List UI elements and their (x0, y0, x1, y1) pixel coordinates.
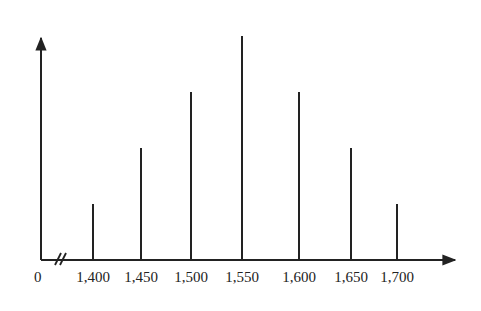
x-tick-labels: 1,4001,4501,5001,5501,6001,6501,700 (76, 269, 414, 285)
bar-chart: 0 1,4001,4501,5001,5501,6001,6501,700 (0, 0, 481, 311)
x-tick-label: 1,400 (76, 269, 110, 285)
x-tick-label: 1,650 (334, 269, 368, 285)
x-tick-label: 1,700 (380, 269, 414, 285)
origin-label: 0 (34, 269, 42, 285)
x-tick-label: 1,450 (124, 269, 158, 285)
x-tick-label: 1,600 (282, 269, 316, 285)
x-tick-label: 1,500 (174, 269, 208, 285)
bars (93, 36, 397, 260)
x-tick-label: 1,550 (225, 269, 259, 285)
